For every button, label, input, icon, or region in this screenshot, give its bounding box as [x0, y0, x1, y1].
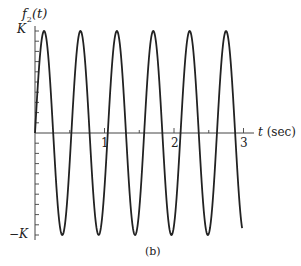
figure-caption: (b) [145, 246, 161, 257]
chart-plot [0, 0, 301, 266]
x-tick-label-1: 1 [101, 137, 109, 149]
x-tick-label-2: 2 [171, 137, 179, 149]
y-tick-label-k: K [17, 23, 26, 35]
y-tick-label-neg-k: −K [9, 228, 28, 240]
x-axis-label: t (sec) [258, 126, 296, 138]
x-tick-label-3: 3 [240, 137, 248, 149]
